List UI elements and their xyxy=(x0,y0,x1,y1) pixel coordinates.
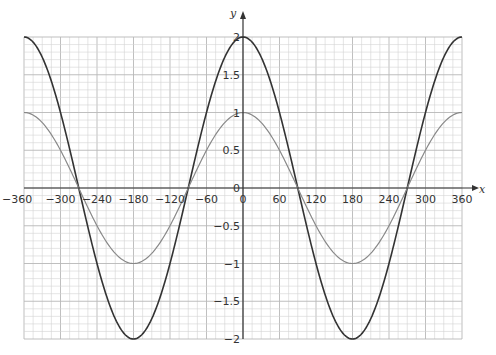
y-tick-label: 0.5 xyxy=(223,144,241,157)
x-tick-label: 0 xyxy=(240,193,247,206)
y-tick-label: −1 xyxy=(224,258,240,271)
y-axis-arrow-icon xyxy=(240,11,246,19)
y-tick-label: −2 xyxy=(224,333,240,346)
y-tick-label: 2 xyxy=(233,31,240,44)
x-tick-label: −120 xyxy=(155,193,185,206)
y-tick-label: 1.5 xyxy=(223,69,241,82)
x-tick-label: 240 xyxy=(379,193,400,206)
y-tick-label: −1.5 xyxy=(213,295,240,308)
x-tick-label: 120 xyxy=(306,193,327,206)
x-tick-label: −240 xyxy=(82,193,112,206)
y-axis-label: y xyxy=(229,7,237,20)
y-tick-label: 1 xyxy=(233,107,240,120)
y-tick-label: 0 xyxy=(233,182,240,195)
x-axis-arrow-icon xyxy=(472,185,479,191)
x-tick-label: −180 xyxy=(118,193,148,206)
x-tick-label: −60 xyxy=(195,193,218,206)
x-tick-label: 60 xyxy=(273,193,287,206)
chart: x y −360−300−240−180−120−600601201802403… xyxy=(0,0,496,355)
x-tick-label: 360 xyxy=(452,193,473,206)
x-tick-label: 300 xyxy=(415,193,436,206)
x-axis-label: x xyxy=(479,183,486,196)
x-tick-label: −360 xyxy=(2,193,32,206)
x-tick-label: 180 xyxy=(342,193,363,206)
x-tick-label: −300 xyxy=(45,193,75,206)
y-tick-label: −0.5 xyxy=(213,220,240,233)
